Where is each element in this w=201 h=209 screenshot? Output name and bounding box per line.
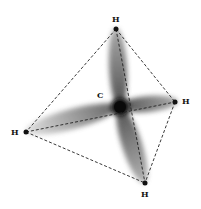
hydrogen-bottom bbox=[143, 181, 148, 186]
label-hydrogen-right: H bbox=[182, 96, 190, 106]
hydrogen-top bbox=[114, 27, 119, 32]
label-hydrogen-left: H bbox=[11, 127, 19, 137]
label-carbon: C bbox=[97, 90, 103, 100]
label-hydrogen-bottom: H bbox=[141, 189, 149, 199]
edge-right-bottom bbox=[145, 102, 175, 183]
hydrogen-right bbox=[173, 100, 178, 105]
label-hydrogen-top: H bbox=[112, 14, 120, 24]
orbital-lobe-left bbox=[23, 97, 121, 141]
orbital-lobe-bottom bbox=[110, 104, 154, 186]
carbon-core bbox=[114, 101, 126, 113]
hydrogen-left bbox=[24, 130, 29, 135]
tetrahedron-diagram: H H H H C bbox=[0, 0, 201, 209]
